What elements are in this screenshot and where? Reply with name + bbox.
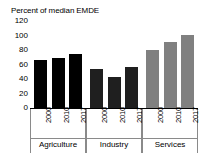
bar[interactable]: [164, 21, 177, 109]
bar-agriculture-2010[interactable]: [52, 58, 65, 109]
bar-industry-2017[interactable]: [125, 67, 138, 109]
bar[interactable]: [90, 21, 103, 109]
bar-group-services: [142, 21, 198, 109]
bar[interactable]: [125, 21, 138, 109]
bar-services-2000[interactable]: [146, 50, 159, 109]
category-separator: [87, 138, 141, 139]
bar[interactable]: [52, 21, 65, 109]
category-block-industry: 200020102017Industry: [86, 109, 142, 153]
bar-chart: Percent of median EMDE 120100806040200 2…: [0, 0, 200, 154]
category-separator: [143, 138, 197, 139]
year-label-2010: 2010: [63, 107, 71, 123]
bar[interactable]: [34, 21, 47, 109]
bar-agriculture-2000[interactable]: [34, 60, 47, 109]
y-axis-tick-label: 80: [2, 46, 28, 54]
category-separator: [31, 138, 85, 139]
y-axis-tick-label: 40: [2, 75, 28, 83]
bar[interactable]: [146, 21, 159, 109]
bar-group-agriculture: [30, 21, 86, 109]
y-axis-tick-label: 120: [2, 17, 28, 25]
plot-area: [30, 21, 198, 109]
y-axis-tick-label: 100: [2, 32, 28, 40]
category-block-agriculture: 200020102017Agriculture: [30, 109, 86, 153]
year-label-row: 200020102017: [143, 109, 197, 139]
category-block-services: 200020102017Services: [142, 109, 198, 153]
category-label-agriculture: Agriculture: [31, 140, 85, 150]
bar-group-industry: [86, 21, 142, 109]
bar-agriculture-2017[interactable]: [69, 54, 82, 109]
y-axis-tick-label: 20: [2, 90, 28, 98]
bar[interactable]: [108, 21, 121, 109]
category-label-services: Services: [143, 140, 197, 150]
bar-services-2010[interactable]: [164, 42, 177, 109]
category-axis: 200020102017Agriculture200020102017Indus…: [30, 109, 198, 153]
year-label-row: 200020102017: [87, 109, 141, 139]
bar[interactable]: [181, 21, 194, 109]
y-axis-tick-label: 0: [2, 104, 28, 112]
year-label-2010: 2010: [119, 107, 127, 123]
y-axis: 120100806040200: [0, 0, 28, 154]
year-label-2017: 2017: [192, 107, 200, 123]
year-label-2010: 2010: [175, 107, 183, 123]
bar-services-2017[interactable]: [181, 35, 194, 109]
category-label-industry: Industry: [87, 140, 141, 150]
bar-industry-2000[interactable]: [90, 69, 103, 109]
bar[interactable]: [69, 21, 82, 109]
bar-industry-2010[interactable]: [108, 77, 121, 109]
y-axis-tick-label: 60: [2, 61, 28, 69]
year-label-row: 200020102017: [31, 109, 85, 139]
year-label-2000: 2000: [101, 107, 109, 123]
year-label-2000: 2000: [157, 107, 165, 123]
year-label-2000: 2000: [45, 107, 53, 123]
